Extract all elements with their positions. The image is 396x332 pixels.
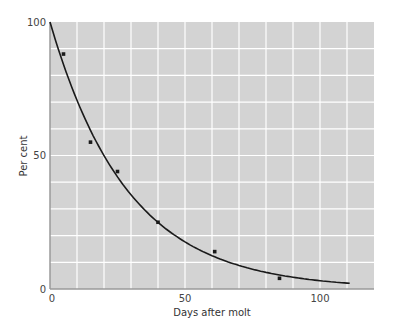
y-tick-label: 50 xyxy=(33,150,46,161)
data-point xyxy=(62,52,66,56)
y-tick-label: 0 xyxy=(40,284,46,295)
data-point xyxy=(156,220,160,224)
x-tick-labels: 050100 xyxy=(49,293,330,304)
x-tick-label: 100 xyxy=(310,293,329,304)
x-tick-label: 0 xyxy=(49,293,55,304)
data-point xyxy=(278,277,282,281)
y-axis-label: Per cent xyxy=(18,135,29,176)
x-tick-label: 50 xyxy=(179,293,192,304)
data-point xyxy=(89,140,93,144)
chart: 050100 050100 Days after molt Per cent xyxy=(0,0,396,332)
y-tick-label: 100 xyxy=(27,17,46,28)
x-axis-label: Days after molt xyxy=(173,307,251,318)
y-tick-labels: 050100 xyxy=(27,17,46,295)
data-point xyxy=(213,250,217,254)
data-point xyxy=(116,170,120,174)
